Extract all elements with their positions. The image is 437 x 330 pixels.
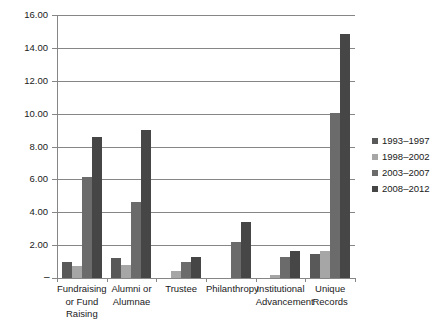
bar [191,257,201,278]
legend: 1993–19971998–20022003–20072008–2012 [372,133,430,197]
x-axis-category-label-line: Records [305,296,355,309]
x-axis-category-label-line: Raising [57,308,107,321]
legend-item: 2008–2012 [372,181,430,197]
bar [111,258,121,278]
y-axis-tick-label: 4.00 [30,207,49,217]
legend-item: 2003–2007 [372,165,430,181]
bar [340,34,350,278]
legend-swatch-icon [372,186,378,192]
bar [280,257,290,278]
bar-group [107,15,157,278]
x-axis-tick [305,278,306,282]
bar [320,251,330,278]
bar-group [206,15,256,278]
y-axis-tick-label: 6.00 [30,174,49,184]
bar-chart: 16.0014.0012.0010.008.006.004.002.00 – F… [0,0,437,330]
x-axis-category-label-line: Institutional [256,283,306,296]
bar [181,262,191,278]
x-axis-category-label: Philanthropy [206,283,256,296]
x-axis-tick [206,278,207,282]
bar [330,113,340,278]
y-axis-tick-label: 2.00 [30,240,49,250]
x-axis-tick [355,278,356,282]
x-axis-tick [107,278,108,282]
y-axis-tick-label: 12.00 [24,76,48,86]
y-axis-zero-label: – [44,272,50,282]
x-axis-tick [256,278,257,282]
x-axis-category-label: InstitutionalAdvancement [256,283,306,308]
bar [131,202,141,278]
x-axis-category-label-line: Alumni or [107,283,157,296]
bar [171,271,181,278]
bar [270,275,280,278]
bar [290,251,300,278]
x-axis-category-label-line: Fundraising [57,283,107,296]
plot-area [57,15,355,278]
legend-swatch-icon [372,170,378,176]
x-axis-category-label-line: Advancement [256,296,306,309]
bar-group [256,15,306,278]
bar [310,254,320,278]
y-axis-tick-label: 16.00 [24,10,48,20]
legend-item: 1993–1997 [372,133,430,149]
x-axis-category-label-line: Trustee [156,283,206,296]
legend-swatch-icon [372,154,378,160]
legend-item-label: 1993–1997 [382,136,430,146]
legend-swatch-icon [372,138,378,144]
x-axis-category-label: Alumni orAlumnae [107,283,157,308]
legend-item-label: 2003–2007 [382,168,430,178]
x-axis-category-label: Fundraisingor FundRaising [57,283,107,321]
bar [62,262,72,278]
x-axis-category-label-line: Alumnae [107,296,157,309]
x-axis-category-label-line: or Fund [57,296,107,309]
bar [241,222,251,278]
bar-group [305,15,355,278]
y-axis-tick-label: 8.00 [30,142,49,152]
y-axis-tick-label: 14.00 [24,43,48,53]
x-axis-category-label-line: Philanthropy [206,283,256,296]
legend-item: 1998–2002 [372,149,430,165]
bar [72,266,82,278]
legend-item-label: 2008–2012 [382,184,430,194]
bar [92,137,102,278]
bar [82,177,92,278]
bar [231,242,241,278]
bar-group [57,15,107,278]
bar [121,265,131,278]
bar [141,130,151,278]
x-axis-category-label: UniqueRecords [305,283,355,308]
legend-item-label: 1998–2002 [382,152,430,162]
x-axis-category-label-line: Unique [305,283,355,296]
x-axis-tick [156,278,157,282]
x-axis-category-label: Trustee [156,283,206,296]
x-axis-tick [57,278,58,282]
bar-group [156,15,206,278]
y-axis-tick-label: 10.00 [24,109,48,119]
